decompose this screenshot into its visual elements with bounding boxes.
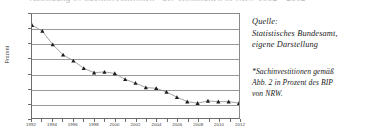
x-axis-tick-mark	[62, 119, 63, 122]
footnote-definition: *Sachinvestitionen gemäß Abb. 2 in Proze…	[252, 66, 376, 100]
data-series-triangle-line	[32, 14, 239, 118]
source-note-line-3: eigene Darstellung	[252, 39, 374, 51]
y-axis-tick-mark	[28, 43, 31, 44]
footnote-line-3: von NRW.	[255, 88, 376, 99]
y-axis-tick-mark	[28, 28, 31, 29]
x-axis-tick-mark	[83, 119, 84, 122]
line-chart: Prozent 1,71,51,31,10,90,70,50,319921994…	[0, 6, 246, 137]
source-note-line-2: Statistisches Bundesamt,	[252, 28, 374, 40]
notes-column: Quelle: Statistisches Bundesamt, eigene …	[252, 0, 376, 137]
y-axis-tick-mark	[28, 74, 31, 75]
plot-area	[31, 13, 240, 119]
y-axis-tick-mark	[28, 104, 31, 105]
x-axis-tick-mark	[167, 119, 168, 122]
y-axis-tick-mark	[28, 13, 31, 14]
x-axis-tick-mark	[230, 119, 231, 122]
data-point-marker	[71, 59, 75, 63]
source-note-line-1: Quelle:	[252, 16, 374, 28]
footnote-line-1: *Sachinvestitionen gemäß	[255, 66, 376, 77]
y-axis-title: Prozent	[5, 35, 10, 75]
x-axis-tick-mark	[104, 119, 105, 122]
data-point-marker	[40, 29, 44, 33]
x-axis-tick-mark	[125, 119, 126, 122]
x-axis-tick-label: 2012	[225, 123, 255, 127]
data-point-marker	[32, 23, 34, 27]
y-axis-tick-mark	[28, 89, 31, 90]
y-axis-tick-mark	[28, 58, 31, 59]
x-axis-tick-mark	[188, 119, 189, 122]
series-line	[32, 25, 239, 103]
x-axis-tick-mark	[146, 119, 147, 122]
data-point-marker	[175, 95, 179, 99]
data-point-marker	[123, 77, 127, 81]
x-axis-tick-mark	[209, 119, 210, 122]
source-note: Quelle: Statistisches Bundesamt, eigene …	[252, 16, 374, 51]
x-axis-tick-mark	[41, 119, 42, 122]
footnote-line-2: Abb. 2 in Prozent des BIP	[255, 77, 376, 88]
